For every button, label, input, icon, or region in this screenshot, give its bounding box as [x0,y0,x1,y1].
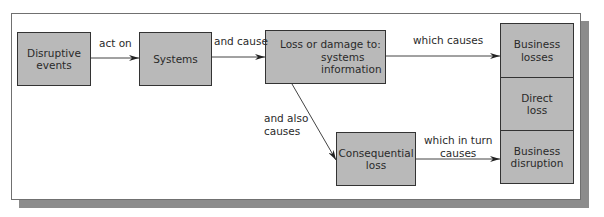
node-loss-or-damage-title: Loss or damage to: [280,38,385,51]
node-consequential-loss: Consequential loss [336,132,416,186]
node-systems: Systems [139,32,212,86]
node-business-losses-label: Business losses [514,38,560,63]
node-business-disruption: Business disruption [500,130,574,184]
node-business-losses: Business losses [500,23,574,78]
node-disruptive-events-label: Disruptive events [27,47,81,72]
node-direct-loss: Direct loss [500,77,574,131]
edge-label-which-causes: which causes [413,34,483,47]
node-loss-or-damage-items: systems information [280,51,385,76]
node-business-disruption-label: Business disruption [511,145,564,170]
edge-label-which-in-turn-causes: which in turn causes [424,134,492,159]
edge-label-and-also-causes: and also causes [264,112,308,137]
node-systems-label: Systems [153,53,198,66]
node-loss-or-damage: Loss or damage to: systems information [265,30,386,84]
node-direct-loss-label: Direct loss [521,92,552,117]
edge-label-act-on: act on [99,37,132,50]
edge-label-and-cause: and cause [214,35,268,48]
node-disruptive-events: Disruptive events [17,32,91,86]
node-consequential-loss-label: Consequential loss [338,147,413,172]
